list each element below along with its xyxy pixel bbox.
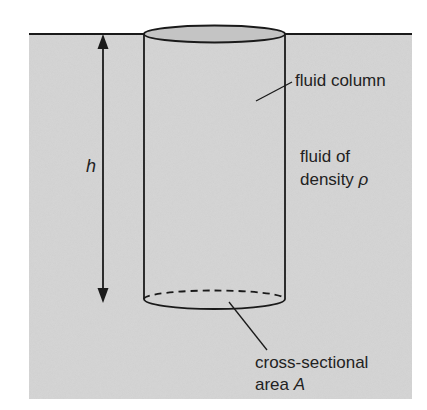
cross-sectional-label: cross-sectional <box>255 352 368 373</box>
density-text: density <box>300 170 354 189</box>
fluid-column-label: fluid column <box>295 70 386 91</box>
column-top-cap <box>144 26 285 43</box>
density-symbol: ρ <box>359 170 369 189</box>
density-label: density ρ <box>300 169 368 190</box>
area-symbol: A <box>294 375 305 394</box>
area-label: area A <box>255 374 305 395</box>
height-label: h <box>86 156 96 177</box>
fluid-of-label: fluid of <box>300 146 350 167</box>
fluid-column-diagram <box>0 0 427 410</box>
area-text: area <box>255 375 289 394</box>
